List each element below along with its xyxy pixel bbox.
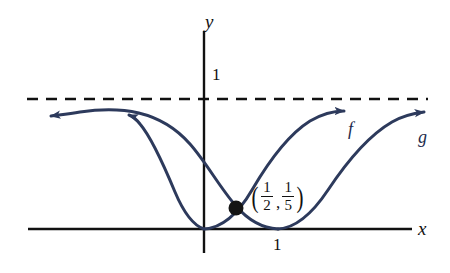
fraction-denominator: 2 [263, 197, 271, 213]
fraction-one-fifth: 1 5 [281, 180, 295, 213]
intersection-point-dot [229, 201, 244, 216]
fraction-one-half: 1 2 [260, 180, 274, 213]
fraction-numerator: 1 [285, 180, 293, 196]
x-axis-label: x [418, 219, 426, 238]
curve-f-left-branch [129, 115, 204, 229]
x-tick-label-1: 1 [273, 236, 282, 253]
intersection-point-annotation: ( 1 2 , 1 5 ) [250, 180, 305, 213]
graph-canvas [0, 0, 450, 273]
close-paren: ) [297, 182, 304, 212]
fraction-denominator: 5 [285, 197, 293, 213]
y-axis-label: y [205, 12, 213, 31]
y-tick-label-1: 1 [212, 66, 221, 83]
fraction-numerator: 1 [263, 180, 271, 196]
open-paren: ( [252, 182, 259, 212]
coordinate-comma: , [274, 194, 281, 211]
curve-label-g: g [418, 128, 427, 146]
math-graph-figure: y x 1 1 f g ( 1 2 , 1 5 ) [0, 0, 450, 273]
curve-label-f: f [348, 120, 353, 138]
